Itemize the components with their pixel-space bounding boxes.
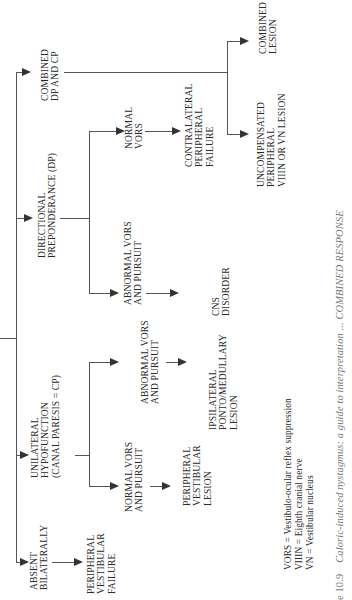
arrow-icon [162, 482, 171, 490]
figure-number: e 10.9 [334, 574, 345, 600]
node-directional-preponderance: DIRECTIONAL PREPONDERANCE (DP) [37, 153, 58, 258]
arrow-icon [74, 558, 83, 566]
arrow-icon [110, 289, 119, 297]
edge-line [89, 131, 90, 293]
edge-line [64, 72, 227, 73]
node-unilateral-hypofunction: UNILATERAL HYPOFUNCTION (CANAL PARESIS =… [30, 375, 61, 478]
node-contralateral-failure: CONTRALATERAL PERIPHERAL FAILURE [184, 84, 215, 167]
node-combined-lesion: COMBINED LESION [258, 2, 279, 54]
trunk-line [16, 72, 17, 563]
node-absent-bilaterally: ABSENT BILATERALLY [29, 525, 50, 590]
node-uncompensated-lesion: UNCOMPENSATED PERIPHERAL VIIIN OR VN LES… [256, 93, 287, 187]
node-combined-dp-cp: COMBINED DP AND CP [40, 49, 61, 101]
node-peripheral-vestibular-failure: PERIPHERAL VESTIBULAR FAILURE [86, 533, 117, 594]
arrow-icon [110, 482, 119, 490]
node-peripheral-vestibular-lesion: PERIPHERAL VESTIBULAR LESION [182, 445, 213, 506]
node-ipsilateral-lesion: IPSILATERAL PONTO/MEDULLARY LESION [208, 334, 239, 430]
arrow-icon [240, 37, 249, 45]
arrow-icon [240, 130, 249, 138]
arrow-icon [24, 214, 33, 222]
arrow-icon [178, 358, 187, 366]
edge-line [227, 41, 228, 134]
root-stub-line [0, 338, 17, 339]
node-abnormal-vors-pursuit-cp: ABNORMAL VORS AND PURSUIT [140, 320, 161, 404]
figure-caption: e 10.9 Caloric-induced nystagmus: a guid… [334, 210, 346, 600]
arrow-icon [110, 358, 119, 366]
arrow-icon [20, 451, 29, 459]
figure-title: Caloric-induced nystagmus: a guide to in… [334, 210, 345, 563]
node-normal-vors-pursuit: NORMAL VORS AND PURSUIT [124, 442, 145, 512]
edge-line [89, 362, 90, 486]
abbreviation-legend: VORS = Vestibulo-ocular reflex suppressi… [283, 398, 316, 570]
node-normal-vors: NORMAL VORS [124, 107, 145, 149]
edge-line [75, 455, 89, 456]
arrow-icon [172, 127, 181, 135]
edge-line [60, 218, 89, 219]
node-abnormal-vors-pursuit-dp: ABNORMAL VORS AND PURSUIT [123, 221, 144, 305]
arrow-icon [22, 68, 31, 76]
node-cns-disorder: CNS DISORDER [211, 267, 232, 316]
arrow-icon [170, 289, 179, 297]
